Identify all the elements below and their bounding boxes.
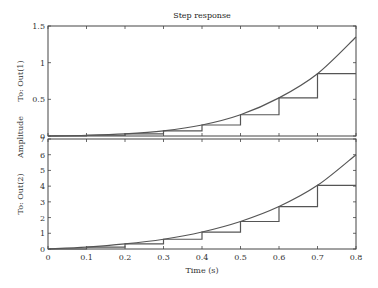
x-tick-label: 0.2: [119, 253, 132, 262]
y-tick-label: 1: [40, 229, 45, 238]
x-tick-label: 0.3: [157, 253, 170, 262]
x-tick-label: 0.8: [350, 253, 363, 262]
x-tick-label: 0.4: [196, 253, 209, 262]
y-tick-label: 1.5: [32, 22, 45, 31]
y-label-out1: To: Out(1): [16, 60, 25, 101]
subplot-out2: 0123456700.10.20.30.40.50.60.70.8: [40, 135, 362, 262]
x-tick-label: 0.5: [234, 253, 247, 262]
x-tick-label: 0.1: [80, 253, 93, 262]
y-label-out2: To: Out(2): [16, 173, 25, 214]
y-tick-label: 0: [40, 245, 45, 254]
subplot-out1: 00.511.5: [32, 22, 356, 141]
chart-title: Step response: [173, 11, 231, 20]
y-tick-label: 1: [40, 59, 45, 68]
y-tick-label: 5: [40, 166, 45, 175]
y-axis-label: Amplitude: [16, 116, 25, 159]
y-tick-label: 6: [40, 151, 45, 160]
x-tick-label: 0.7: [311, 253, 324, 262]
continuous-series-line: [48, 37, 356, 136]
y-tick-label: 3: [40, 198, 45, 207]
discrete-series-line: [48, 185, 356, 249]
discrete-series-line: [48, 74, 356, 136]
plot-frame: [48, 26, 356, 136]
y-tick-label: 2: [40, 214, 45, 223]
x-axis-label: Time (s): [185, 266, 218, 275]
step-response-chart: Step response 00.511.5 0123456700.10.20.…: [0, 0, 378, 288]
y-tick-label: 4: [40, 182, 45, 191]
y-tick-label: 0.5: [32, 95, 45, 104]
x-tick-label: 0: [45, 253, 50, 262]
x-tick-label: 0.6: [273, 253, 286, 262]
y-tick-label: 7: [40, 135, 45, 144]
